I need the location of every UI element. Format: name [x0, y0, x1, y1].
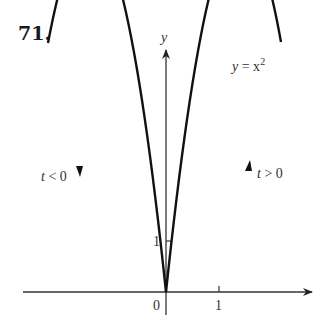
direction-arrow-up-icon	[245, 160, 252, 171]
direction-arrow-down-icon	[76, 166, 83, 177]
problem-number: 71.	[18, 22, 51, 44]
y-axis-label: y	[159, 30, 168, 45]
curve-label: y = x2	[230, 56, 265, 74]
t-positive-label: t > 0	[257, 166, 283, 181]
x-tick-1-label: 1	[215, 298, 222, 313]
parametric-plot: 71. y y = x2 t < 0 t > 0 0 1 1	[0, 0, 321, 323]
origin-label: 0	[153, 298, 160, 313]
y-tick-1-label: 1	[153, 234, 160, 249]
t-negative-label: t < 0	[41, 169, 67, 184]
